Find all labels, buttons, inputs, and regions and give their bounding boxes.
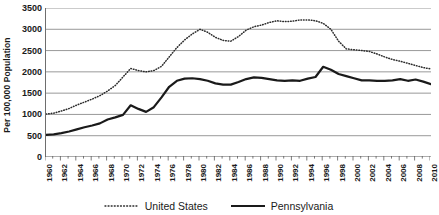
plot-area	[45, 8, 430, 157]
y-axis-title: Per 100,000 Population	[0, 0, 15, 170]
x-axis-tick-label: 1962	[60, 155, 69, 173]
x-axis-tick-label: 2010	[430, 155, 439, 173]
x-axis-tick-label: 1984	[230, 155, 239, 173]
legend-item-united-states: United States	[104, 200, 208, 212]
legend-swatch-dotted	[104, 201, 140, 211]
y-axis-tick-label: 1000	[22, 109, 42, 119]
y-axis-tick-label: 2000	[22, 67, 42, 77]
y-axis-tick-label: 3000	[22, 24, 42, 34]
x-axis-tick-label: 2004	[384, 155, 393, 173]
y-axis-tick-label: 1500	[22, 88, 42, 98]
y-axis-tick-labels: 3500300025002000150010005000	[14, 0, 42, 175]
x-axis-tick-label: 1976	[168, 155, 177, 173]
x-axis-tick-label: 1974	[153, 155, 162, 173]
x-axis-tick-label: 1988	[261, 155, 270, 173]
x-axis-tick-label: 1960	[45, 155, 54, 173]
x-axis-tick-label: 1996	[322, 155, 331, 173]
y-axis-title-text: Per 100,000 Population	[2, 37, 12, 132]
legend-swatch-solid	[230, 201, 266, 211]
legend-label-pennsylvania: Pennsylvania	[271, 200, 333, 212]
x-axis-tick-label: 1978	[184, 155, 193, 173]
legend-item-pennsylvania: Pennsylvania	[230, 200, 333, 212]
x-axis-tick-label: 1982	[214, 155, 223, 173]
x-axis-tick-label: 1972	[137, 155, 146, 173]
x-axis-tick-label: 1968	[107, 155, 116, 173]
data-series-group	[46, 20, 431, 135]
series-line-pennsylvania	[46, 67, 431, 135]
x-axis-tick-label: 1964	[76, 155, 85, 173]
y-axis-tick-label: 2500	[22, 46, 42, 56]
y-axis-tick-label: 500	[27, 131, 42, 141]
x-axis-tick-label: 1990	[276, 155, 285, 173]
x-axis-tick-label: 1966	[91, 155, 100, 173]
x-axis-tick-labels: 1960196219641966196819701972197419761978…	[45, 160, 430, 194]
chart-legend: United States Pennsylvania	[0, 196, 437, 215]
x-axis-tick-label: 1992	[291, 155, 300, 173]
y-axis-tick-label: 3500	[22, 3, 42, 13]
y-axis-tick-label: 0	[37, 152, 42, 162]
x-axis-tick-label: 2006	[399, 155, 408, 173]
x-axis-tick-label: 1970	[122, 155, 131, 173]
x-axis-tick-label: 1994	[307, 155, 316, 173]
plot-svg	[46, 8, 431, 157]
x-axis-tick-label: 2008	[415, 155, 424, 173]
legend-label-united-states: United States	[145, 200, 208, 212]
x-axis-tick-label: 1986	[245, 155, 254, 173]
x-axis-tick-label: 1998	[338, 155, 347, 173]
x-axis-tick-label: 2002	[368, 155, 377, 173]
x-axis-tick-label: 1980	[199, 155, 208, 173]
series-line-united-states	[46, 20, 431, 114]
x-axis-tick-label: 2000	[353, 155, 362, 173]
